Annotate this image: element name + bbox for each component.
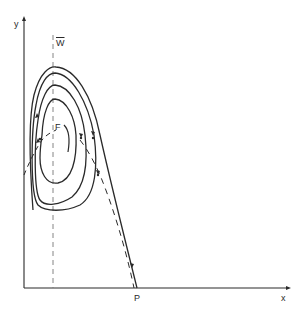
point-p-label: P	[134, 294, 140, 303]
nullcline-right-dashed	[80, 140, 134, 288]
crossing-dot	[92, 137, 94, 139]
crossing-dot	[80, 137, 82, 139]
y-axis-arrow-icon	[22, 16, 26, 21]
x-axis-label: x	[281, 294, 286, 303]
w-bar-label: W	[56, 39, 65, 48]
y-axis-label: y	[14, 20, 19, 29]
x-axis-arrow-icon	[286, 286, 291, 290]
crossing-dot	[97, 174, 99, 176]
phase-plane-diagram	[0, 0, 305, 315]
orbit-3	[35, 85, 86, 204]
direction-arrow-icon	[130, 263, 134, 268]
inner-spiral	[64, 125, 69, 152]
orbit-inner	[40, 99, 76, 183]
crossing-dot	[39, 138, 41, 140]
focus-label: F	[55, 123, 61, 132]
